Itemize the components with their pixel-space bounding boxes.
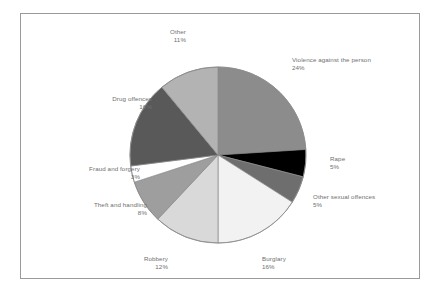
pie-label-theft-and-handling: Theft and handling8% — [94, 201, 147, 217]
pie-label-robbery: Robbery12% — [144, 255, 168, 271]
pie-label-name: Drug offences — [112, 95, 152, 102]
pie-label-other: Other11% — [170, 28, 186, 44]
pie-label-other-sexual-offences: Other sexual offences5% — [313, 193, 375, 209]
pie-chart-figure: Violence against the person24%Rape5%Othe… — [0, 0, 439, 304]
pie-label-drug-offences: Drug offences16% — [112, 95, 152, 111]
pie-label-name: Other sexual offences — [313, 193, 375, 200]
pie-label-name: Burglary — [262, 255, 286, 262]
pie-label-percent: 5% — [330, 163, 345, 171]
pie-label-name: Violence against the person — [292, 56, 371, 63]
pie-label-violence-against-the-person: Violence against the person24% — [292, 56, 371, 72]
pie-label-percent: 3% — [89, 173, 140, 181]
pie-label-name: Rape — [330, 155, 345, 162]
pie-label-rape: Rape5% — [330, 155, 345, 171]
pie-label-percent: 24% — [292, 64, 371, 72]
pie-label-burglary: Burglary16% — [262, 255, 286, 271]
pie-label-percent: 12% — [144, 263, 168, 271]
pie-label-percent: 11% — [170, 36, 186, 44]
pie-label-percent: 8% — [94, 209, 147, 217]
pie-chart-svg — [0, 0, 439, 304]
pie-label-percent: 16% — [112, 103, 152, 111]
pie-slice-group — [130, 67, 306, 243]
pie-label-name: Other — [170, 28, 186, 35]
pie-label-name: Theft and handling — [94, 201, 147, 208]
pie-label-percent: 16% — [262, 263, 286, 271]
pie-label-name: Fraud and forgery — [89, 165, 140, 172]
pie-label-percent: 5% — [313, 201, 375, 209]
pie-label-fraud-and-forgery: Fraud and forgery3% — [89, 165, 140, 181]
pie-slice-violence-against-the-person[interactable] — [218, 67, 306, 155]
pie-label-name: Robbery — [144, 255, 168, 262]
